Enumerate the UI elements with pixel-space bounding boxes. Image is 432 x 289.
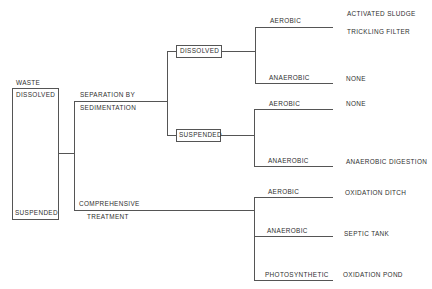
trunk-level2 bbox=[167, 51, 168, 136]
stub-dissolved bbox=[167, 51, 176, 52]
dissolved-anaerobic-label: ANAEROBIC bbox=[269, 75, 310, 81]
connector-suspended bbox=[221, 135, 254, 136]
comprehensive-label-2: TREATMENT bbox=[87, 214, 129, 220]
waste-suspended-label: SUSPENDED bbox=[15, 210, 58, 216]
outcome-dissolved-anaerobic-none: NONE bbox=[346, 76, 366, 82]
waste-box bbox=[12, 88, 59, 220]
line-dissolved-aerobic bbox=[255, 27, 333, 28]
connector-waste-trunk bbox=[58, 153, 74, 154]
separation-label-2: SEDIMENTATION bbox=[80, 105, 136, 111]
bracket-comprehensive bbox=[254, 197, 255, 281]
waste-dissolved-label: DISSOLVED bbox=[16, 92, 55, 98]
connector-dissolved bbox=[222, 51, 255, 52]
suspended-anaerobic-label: ANAEROBIC bbox=[268, 158, 309, 164]
comp-anaerobic-label: ANAEROBIC bbox=[267, 228, 308, 234]
comprehensive-label-1: COMPREHENSIVE bbox=[79, 201, 140, 207]
line-comp-aerobic bbox=[254, 197, 333, 198]
dissolved-box-label: DISSOLVED bbox=[180, 48, 219, 54]
outcome-septic-tank: SEPTIC TANK bbox=[344, 231, 389, 237]
outcome-oxidation-ditch: OXIDATION DITCH bbox=[345, 190, 406, 196]
stub-suspended bbox=[167, 135, 176, 136]
line-suspended-aerobic bbox=[254, 109, 333, 110]
branch-separation bbox=[74, 101, 167, 102]
bracket-suspended bbox=[254, 109, 255, 167]
suspended-aerobic-label: AEROBIC bbox=[269, 101, 300, 107]
comp-photosynthetic-label: PHOTOSYNTHETIC bbox=[265, 272, 329, 278]
waste-label: WASTE bbox=[16, 80, 40, 86]
line-suspended-anaerobic bbox=[254, 166, 333, 167]
dissolved-aerobic-label: AEROBIC bbox=[270, 18, 301, 24]
outcome-suspended-aerobic-none: NONE bbox=[346, 101, 366, 107]
bracket-dissolved bbox=[255, 27, 256, 84]
outcome-activated-sludge: ACTIVATED SLUDGE bbox=[347, 11, 416, 17]
outcome-trickling-filter: TRICKLING FILTER bbox=[347, 29, 410, 35]
separation-label-1: SEPARATION BY bbox=[80, 92, 135, 98]
outcome-anaerobic-digestion: ANAEROBIC DIGESTION bbox=[346, 159, 427, 165]
comp-aerobic-label: AEROBIC bbox=[268, 189, 299, 195]
trunk-level1 bbox=[74, 101, 75, 211]
suspended-box-label: SUSPENDED bbox=[179, 132, 222, 138]
outcome-oxidation-pond: OXIDATION POND bbox=[343, 272, 403, 278]
line-comp-anaerobic bbox=[254, 236, 333, 237]
branch-comprehensive bbox=[74, 210, 255, 211]
line-comp-photosynthetic bbox=[254, 280, 333, 281]
line-dissolved-anaerobic bbox=[255, 83, 333, 84]
